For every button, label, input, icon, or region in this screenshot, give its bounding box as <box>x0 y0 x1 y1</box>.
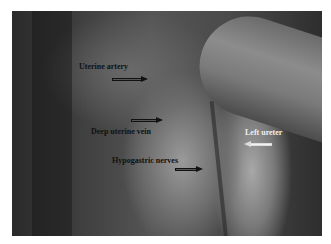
arrow-right-icon <box>112 77 148 82</box>
label-left-ureter: Left ureter <box>245 129 282 137</box>
vessel-line <box>210 101 229 236</box>
label-deep-uterine-vein: Deep uterine vein <box>91 128 151 136</box>
arrow-left-icon <box>244 142 272 147</box>
label-hypogastric-nerves: Hypogastric nerves <box>112 157 178 165</box>
arrow-right-icon <box>131 118 163 123</box>
surgical-photo: Uterine artery Deep uterine vein Hypogas… <box>12 11 322 236</box>
tissue-shadow <box>32 11 72 236</box>
arrow-right-icon <box>175 167 203 172</box>
label-uterine-artery: Uterine artery <box>79 63 128 71</box>
